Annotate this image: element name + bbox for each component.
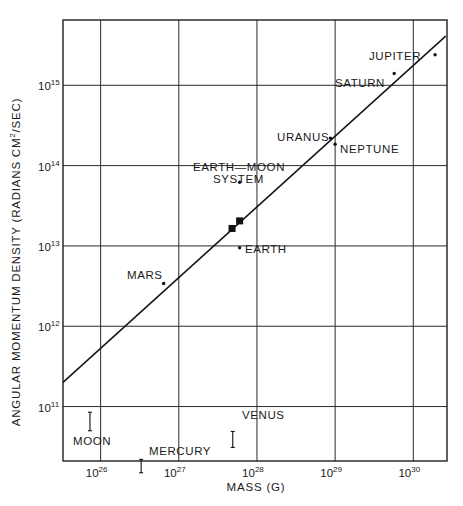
x-tick-label: 1028 [242, 465, 264, 479]
y-tick-label: 1011 [38, 400, 60, 414]
saturn-marker [393, 72, 396, 75]
y-axis-title-tail: /SEC) [10, 98, 22, 133]
neptune-marker [333, 142, 336, 145]
label-saturn: SATURN [335, 77, 385, 89]
label-neptune: NEPTUNE [340, 143, 399, 155]
x-axis-title: MASS (G) [227, 481, 286, 493]
y-tick-label: 1012 [38, 319, 60, 333]
y-axis-title: ANGULAR MOMENTUM DENSITY (RADIANS CM2/SE… [8, 98, 22, 427]
venus-range-bar [231, 431, 235, 447]
x-tick-label: 1029 [320, 465, 342, 479]
y-tick-labels: 10111012101310141015 [38, 78, 60, 413]
mars-marker [162, 282, 165, 285]
label-jupiter: JUPITER [369, 50, 421, 62]
y-tick-label: 1013 [38, 239, 60, 253]
moon-range-bar [88, 412, 92, 431]
y-tick-label: 1015 [38, 78, 60, 92]
y-axis-title-main: ANGULAR MOMENTUM DENSITY (RADIANS CM [10, 138, 22, 427]
fit-line [63, 36, 446, 382]
label-moon: MOON [73, 435, 111, 447]
label-earth-moon-line2: SYSTEM [213, 173, 264, 185]
jupiter-marker [433, 53, 436, 56]
log-log-chart: 10261027102810291030 1011101210131014101… [0, 0, 463, 506]
x-tick-label: 1027 [164, 465, 186, 479]
uranus-marker [329, 136, 332, 139]
label-mars: MARS [127, 269, 163, 281]
label-earth-moon-line1: EARTH—MOON [193, 161, 285, 173]
label-venus: VENUS [242, 409, 285, 421]
label-earth: EARTH [245, 243, 287, 255]
y-tick-label: 1014 [38, 159, 60, 173]
x-tick-label: 1030 [398, 465, 420, 479]
square-marker [229, 225, 236, 232]
x-tick-labels: 10261027102810291030 [86, 465, 421, 479]
earth-marker [238, 246, 241, 249]
x-tick-label: 1026 [86, 465, 108, 479]
label-uranus: URANUS [277, 131, 329, 143]
square-marker [236, 217, 243, 224]
label-mercury: MERCURY [149, 445, 211, 457]
